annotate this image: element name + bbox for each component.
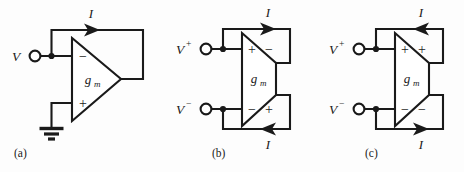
- svg-text:−: −: [186, 99, 191, 109]
- panel-a: V I − + g m (a): [0, 0, 155, 172]
- panel-c: V + V − I I + − + − g m (c): [305, 0, 464, 172]
- ground-wire: [52, 103, 73, 128]
- output-sign-bottom: −: [418, 102, 426, 117]
- svg-text:V: V: [329, 102, 339, 117]
- input-sign-top: +: [401, 42, 409, 57]
- junction-dot: [48, 53, 54, 59]
- negative-input-voltage-label: V −: [329, 99, 344, 117]
- svg-text:g: g: [404, 71, 411, 86]
- svg-text:+: +: [186, 39, 191, 49]
- svg-text:g: g: [251, 71, 258, 86]
- svg-text:V: V: [329, 42, 339, 57]
- svg-text:−: −: [339, 99, 344, 109]
- input-terminal-circle[interactable]: [30, 51, 41, 62]
- panel-caption-b: (b): [212, 147, 226, 160]
- svg-text:V: V: [176, 102, 186, 117]
- output-sign-top: +: [418, 42, 426, 57]
- bottom-current-label: I: [265, 137, 271, 152]
- positive-input-terminal-circle[interactable]: [201, 44, 212, 55]
- bottom-current-label: I: [418, 137, 424, 152]
- positive-input-voltage-label: V +: [176, 39, 191, 57]
- bottom-junction-dot: [373, 106, 379, 112]
- panel-b: V + V − I I + − − + g m (b): [150, 0, 310, 172]
- svg-text:g: g: [85, 72, 92, 87]
- top-current-label: I: [265, 5, 271, 20]
- positive-input-voltage-label: V +: [329, 39, 344, 57]
- svg-text:m: m: [413, 78, 420, 88]
- input-sign-bottom: −: [248, 102, 256, 117]
- input-voltage-label: V: [12, 49, 22, 64]
- top-current-label: I: [418, 5, 424, 20]
- negative-input-terminal-circle[interactable]: [201, 104, 212, 115]
- noninverting-input-sign: +: [79, 96, 87, 111]
- top-junction-dot: [373, 46, 379, 52]
- svg-text:m: m: [260, 78, 267, 88]
- panel-caption-c: (c): [365, 147, 378, 160]
- negative-input-voltage-label: V −: [176, 99, 191, 117]
- negative-input-terminal-circle[interactable]: [354, 104, 365, 115]
- inverting-input-sign: −: [79, 49, 87, 64]
- ground-symbol: [40, 129, 64, 140]
- top-junction-dot: [220, 46, 226, 52]
- svg-text:m: m: [94, 79, 101, 89]
- output-sign-bottom: +: [265, 102, 273, 117]
- input-sign-top: +: [248, 42, 256, 57]
- bottom-junction-dot: [220, 106, 226, 112]
- svg-text:V: V: [176, 42, 186, 57]
- figure-transconductor-symbols: V I − + g m (a) V +: [0, 0, 464, 172]
- positive-input-terminal-circle[interactable]: [354, 44, 365, 55]
- panel-caption-a: (a): [14, 147, 27, 160]
- output-sign-top: −: [265, 42, 273, 57]
- current-label: I: [88, 6, 94, 21]
- input-sign-bottom: −: [401, 102, 409, 117]
- svg-text:+: +: [339, 39, 344, 49]
